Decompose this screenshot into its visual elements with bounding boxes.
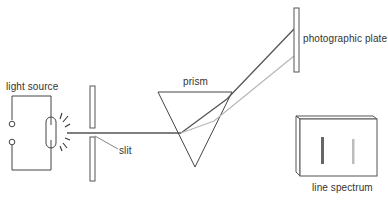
circuit-wire-top [12,96,51,120]
terminal-top [9,121,15,127]
spectrum-line-dark [321,137,324,164]
emission-rays-icon [60,113,70,151]
line-spectrum-plate [296,116,377,176]
photographic-plate [294,8,299,72]
slit-label: slit [119,145,132,156]
slit-pointer [95,136,118,149]
line-spectrum-label: line spectrum [312,182,373,193]
slit-plate-upper [90,86,95,128]
plate-side-face [296,116,300,176]
terminal-bottom [9,139,15,145]
light-source-label: light source [6,81,58,92]
plate-front-face [300,119,377,176]
spectrum-line-light [352,139,355,164]
slit-plate-lower [90,137,95,181]
light-ray [181,56,294,133]
light-source [9,96,70,170]
circuit-wire-bottom [12,145,51,170]
photographic-plate-label: photographic plate [303,33,387,44]
diagram-canvas [0,0,388,207]
prism-label: prism [183,76,208,87]
